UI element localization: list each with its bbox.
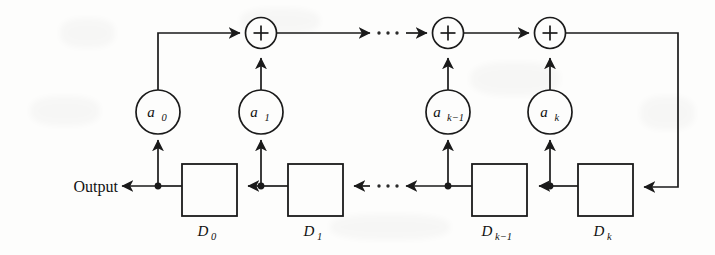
top-ellipsis xyxy=(377,31,398,34)
coefficient-node-ak[interactable]: a k xyxy=(528,90,572,134)
coefficient-label-a0-base: a xyxy=(147,104,155,120)
junction-dot-tapk xyxy=(547,183,554,190)
coefficient-label-ak-minus-1-base: a xyxy=(433,104,441,120)
diagram-svg: a 0 a 1 a k−1 a k xyxy=(0,0,715,255)
junction-dot-tap0 xyxy=(155,183,162,190)
delay-label-d0-base: D xyxy=(197,223,209,239)
adder-1[interactable] xyxy=(246,18,277,49)
delay-block-d1[interactable]: D 1 xyxy=(288,164,343,242)
delay-label-dk-base: D xyxy=(593,223,605,239)
delay-label-d1-sub: 1 xyxy=(317,231,322,242)
delay-label-dk-minus-1-base: D xyxy=(481,223,493,239)
delay-label-dk-sub: k xyxy=(607,231,612,242)
adder-3[interactable] xyxy=(535,18,566,49)
delay-label-dk-minus-1-sub: k−1 xyxy=(495,231,512,242)
delay-block-dk[interactable]: D k xyxy=(578,164,633,242)
delay-label-d1-base: D xyxy=(303,223,315,239)
delay-block-dk-minus-1[interactable]: D k−1 xyxy=(472,164,527,242)
coefficient-node-a1[interactable]: a 1 xyxy=(239,90,283,134)
delay-label-d0-sub: 0 xyxy=(211,231,217,242)
coefficient-label-ak-minus-1-sub: k−1 xyxy=(447,112,464,123)
coefficient-label-ak-base: a xyxy=(540,104,548,120)
figure-canvas: a 0 a 1 a k−1 a k xyxy=(0,0,715,255)
coefficient-label-a1-sub: 1 xyxy=(265,112,270,123)
wire-a0-to-adder1 xyxy=(158,33,240,90)
coefficient-node-a0[interactable]: a 0 xyxy=(136,90,180,134)
junction-dot-tapk-minus-1 xyxy=(445,183,452,190)
delay-block-d0[interactable]: D 0 xyxy=(182,164,237,242)
coefficient-node-ak-minus-1[interactable]: a k−1 xyxy=(426,90,470,134)
junction-dot-tap1 xyxy=(258,183,265,190)
output-label: Output xyxy=(74,178,119,196)
adder-2[interactable] xyxy=(433,18,464,49)
coefficient-label-ak-sub: k xyxy=(555,112,560,123)
coefficient-label-a1-base: a xyxy=(250,104,258,120)
coefficient-label-a0-sub: 0 xyxy=(162,112,168,123)
bottom-ellipsis xyxy=(377,184,398,187)
